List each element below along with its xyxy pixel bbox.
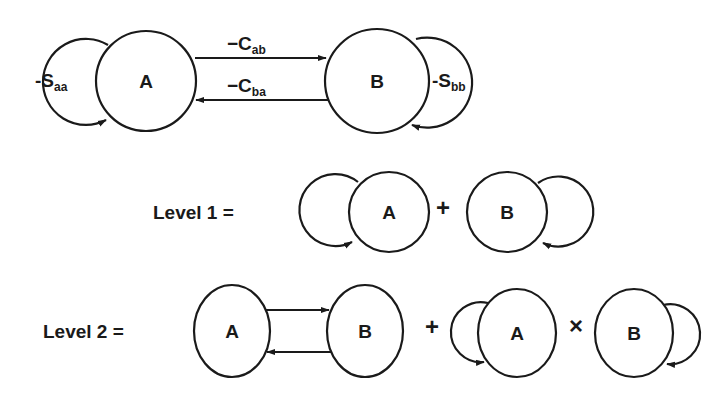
- node-b: B: [325, 29, 429, 133]
- level-2-node-b-label: B: [358, 321, 372, 342]
- level-2-term-ab: A B: [194, 285, 403, 377]
- level-1-label: Level 1 =: [153, 202, 234, 223]
- level-2-node-a2-label: A: [510, 323, 524, 344]
- level-1-row: Level 1 = A + B: [153, 172, 593, 252]
- edge-a-to-b-label: −Cab: [227, 33, 266, 57]
- self-loop-b-label: -Sbb: [432, 70, 466, 94]
- level-2-row: Level 2 = A B + A × B: [43, 285, 700, 377]
- node-a-label: A: [139, 71, 153, 92]
- level-2-label: Level 2 =: [43, 321, 124, 342]
- top-diagram: -Saa A −Cab −Cba -Sbb B: [35, 29, 472, 133]
- diagram-canvas: -Saa A −Cab −Cba -Sbb B Level 1 =: [0, 0, 727, 394]
- level-2-node-b2-label: B: [627, 323, 641, 344]
- plus-operator: +: [436, 194, 450, 221]
- level-1-node-a-label: A: [382, 202, 396, 223]
- edge-b-to-a: −Cba: [196, 75, 329, 100]
- edge-b-to-a-label: −Cba: [227, 75, 266, 99]
- node-b-label: B: [370, 71, 384, 92]
- edge-a-to-b: −Cab: [195, 33, 326, 58]
- self-loop-a-label: -Saa: [35, 70, 68, 94]
- times-operator: ×: [569, 312, 583, 339]
- level-1-term-b: B: [467, 172, 593, 252]
- level-1-term-a: A: [299, 172, 429, 252]
- plus-operator: +: [425, 313, 439, 340]
- level-2-node-a-label: A: [225, 321, 239, 342]
- level-2-term-a-loop: A: [451, 289, 556, 377]
- level-2-term-b-loop: B: [595, 289, 700, 377]
- level-1-node-b-label: B: [500, 202, 514, 223]
- node-a: A: [96, 31, 196, 131]
